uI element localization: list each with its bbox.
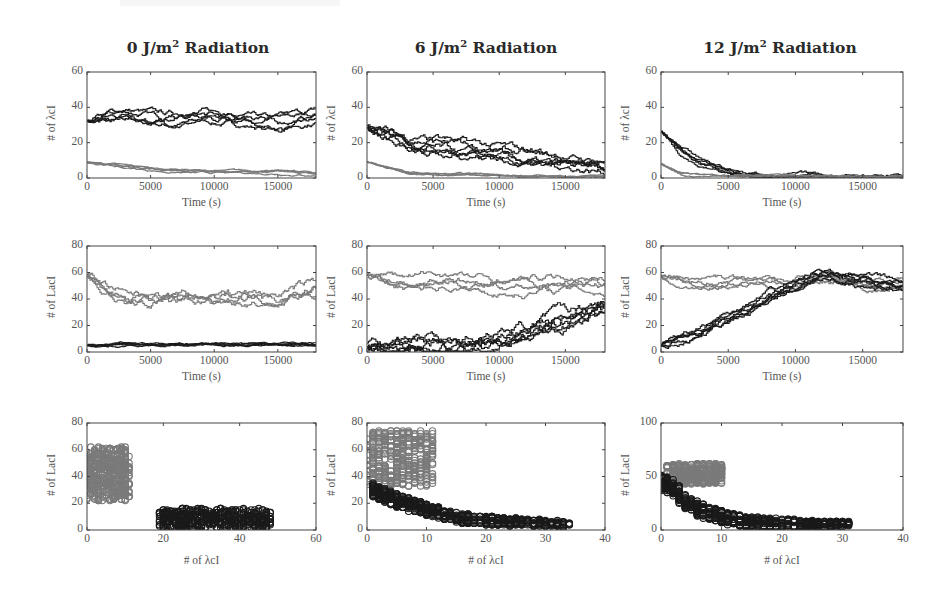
- x-axis-label: # of λcI: [682, 554, 882, 566]
- y-tick-label: 80: [55, 238, 83, 250]
- y-tick-label: 80: [55, 415, 83, 427]
- x-tick-label: 15000: [253, 180, 303, 192]
- y-tick-label: 20: [335, 135, 363, 147]
- x-tick-label: 5000: [408, 354, 458, 366]
- panel-laci-0j: 050001000015000020406080Time (s)# of Lac…: [87, 246, 316, 352]
- x-tick-label: 10000: [189, 354, 239, 366]
- y-tick-label: 60: [335, 64, 363, 76]
- y-tick-label: 60: [55, 265, 83, 277]
- y-tick-label: 50: [629, 469, 657, 481]
- x-axis-label: Time (s): [386, 370, 586, 382]
- y-tick-label: 0: [335, 170, 363, 182]
- x-axis-label: Time (s): [102, 370, 302, 382]
- x-tick-label: 5000: [408, 180, 458, 192]
- plot-area: [367, 423, 605, 530]
- column-title-0j: 0 J/m2 Radiation: [68, 38, 328, 57]
- radiation-label: Radiation: [179, 38, 269, 57]
- axes-frame: [661, 246, 903, 352]
- y-tick-label: 20: [55, 135, 83, 147]
- x-tick-label: 20: [461, 532, 511, 544]
- x-tick-label: 40: [580, 532, 630, 544]
- plot-area: [367, 246, 605, 352]
- y-axis-label: # of LacI: [619, 257, 631, 337]
- y-tick-label: 20: [335, 495, 363, 507]
- y-axis-label: # of LacI: [619, 435, 631, 515]
- y-axis-label: # of LacI: [45, 257, 57, 337]
- panel-phase-12j: 010203040050100# of λcI# of LacI: [661, 423, 903, 530]
- plot-area: [367, 72, 605, 178]
- y-tick-label: 60: [55, 64, 83, 76]
- x-tick-label: 60: [291, 532, 341, 544]
- y-tick-label: 60: [629, 265, 657, 277]
- plot-area: [87, 72, 316, 178]
- y-tick-label: 60: [335, 442, 363, 454]
- y-axis-label: # of LacI: [325, 435, 337, 515]
- plot-area: [87, 423, 316, 530]
- y-tick-label: 20: [335, 318, 363, 330]
- x-tick-label: 40: [215, 532, 265, 544]
- y-tick-label: 80: [629, 238, 657, 250]
- y-axis-label: # of LacI: [325, 257, 337, 337]
- y-tick-label: 20: [629, 318, 657, 330]
- y-tick-label: 40: [55, 99, 83, 111]
- trajectory-line: [661, 132, 903, 178]
- y-tick-label: 80: [335, 238, 363, 250]
- dose-label: 12 J/m: [703, 38, 759, 57]
- y-tick-label: 40: [629, 291, 657, 303]
- trajectory-line: [367, 275, 605, 298]
- y-axis-label: # of λcI: [325, 83, 337, 163]
- x-axis-label: Time (s): [386, 196, 586, 208]
- plot-area: [661, 246, 903, 352]
- trajectory-line: [661, 132, 903, 177]
- y-tick-label: 40: [335, 469, 363, 481]
- panel-lambda-ci-0j: 0500010000150000204060Time (s)# of λcI: [87, 72, 316, 178]
- panel-lambda-ci-12j: 0500010000150000204060Time (s)# of λcI: [661, 72, 903, 178]
- y-tick-label: 40: [335, 291, 363, 303]
- x-axis-label: Time (s): [682, 370, 882, 382]
- y-tick-label: 40: [55, 291, 83, 303]
- y-tick-label: 40: [335, 99, 363, 111]
- panel-lambda-ci-6j: 0500010000150000204060Time (s)# of λcI: [367, 72, 605, 178]
- y-tick-label: 60: [55, 442, 83, 454]
- trajectory-line: [661, 131, 903, 177]
- x-tick-label: 30: [521, 532, 571, 544]
- trajectory-line: [661, 132, 903, 178]
- axes-frame: [87, 72, 316, 178]
- x-tick-label: 20: [757, 532, 807, 544]
- y-tick-label: 80: [335, 415, 363, 427]
- panel-phase-6j: 010203040020406080# of λcI# of LacI: [367, 423, 605, 530]
- x-tick-label: 15000: [540, 354, 590, 366]
- plot-area: [661, 72, 903, 178]
- x-tick-label: 15000: [838, 180, 888, 192]
- superscript: 2: [760, 38, 767, 49]
- y-axis-label: # of λcI: [45, 83, 57, 163]
- y-tick-label: 100: [629, 415, 657, 427]
- y-tick-label: 0: [335, 522, 363, 534]
- dose-label: 0 J/m: [127, 38, 173, 57]
- y-tick-label: 0: [335, 344, 363, 356]
- y-tick-label: 20: [55, 318, 83, 330]
- x-tick-label: 15000: [838, 354, 888, 366]
- plot-area: [87, 246, 316, 352]
- dose-label: 6 J/m: [415, 38, 461, 57]
- x-tick-label: 10000: [474, 180, 524, 192]
- column-title-6j: 6 J/m2 Radiation: [356, 38, 616, 57]
- plot-area: [661, 423, 903, 530]
- x-axis-label: Time (s): [682, 196, 882, 208]
- radiation-label: Radiation: [467, 38, 557, 57]
- y-tick-label: 0: [629, 170, 657, 182]
- y-tick-label: 60: [629, 64, 657, 76]
- trajectory-line: [367, 127, 605, 172]
- panel-laci-12j: 050001000015000020406080Time (s)# of Lac…: [661, 246, 903, 352]
- y-axis-label: # of LacI: [45, 435, 57, 515]
- column-title-12j: 12 J/m2 Radiation: [650, 38, 910, 57]
- x-tick-label: 5000: [703, 354, 753, 366]
- x-tick-label: 40: [878, 532, 928, 544]
- x-axis-label: # of λcI: [386, 554, 586, 566]
- panel-laci-6j: 050001000015000020406080Time (s)# of Lac…: [367, 246, 605, 352]
- x-tick-label: 10000: [474, 354, 524, 366]
- x-tick-label: 15000: [540, 180, 590, 192]
- x-tick-label: 30: [818, 532, 868, 544]
- y-tick-label: 40: [55, 469, 83, 481]
- y-tick-label: 0: [55, 522, 83, 534]
